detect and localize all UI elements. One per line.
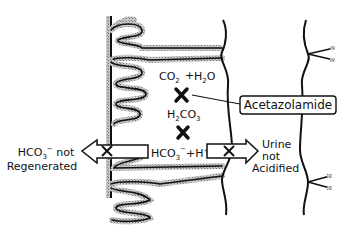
cell-membranes [221,20,335,215]
product-hco3-h: HCO3−+H+ [151,145,209,162]
acidified-label: Acidified [252,162,299,175]
proximal-tubule-diagram: CO2 + H2O H2CO3 HCO3−+H+ Acetazolamide [0,0,363,238]
hco3-not-regenerated-label: HCO3− not [18,145,75,161]
reactant-h2o: H2O [194,70,216,85]
plus-sign-1: + [185,69,194,82]
regenerated-label: Regenerated [7,160,78,173]
inhibition-x-icon [176,89,187,101]
acetazolamide-label: Acetazolamide [244,98,332,112]
acetazolamide-callout: Acetazolamide [192,95,336,114]
inhibition-x-icon [178,127,188,138]
proton-arrow-right [207,140,258,163]
reaction-equation: CO2 + H2O H2CO3 HCO3−+H+ [151,69,216,162]
reactant-co2: CO2 [159,70,180,85]
intermediate-h2co3: H2CO3 [167,108,201,123]
